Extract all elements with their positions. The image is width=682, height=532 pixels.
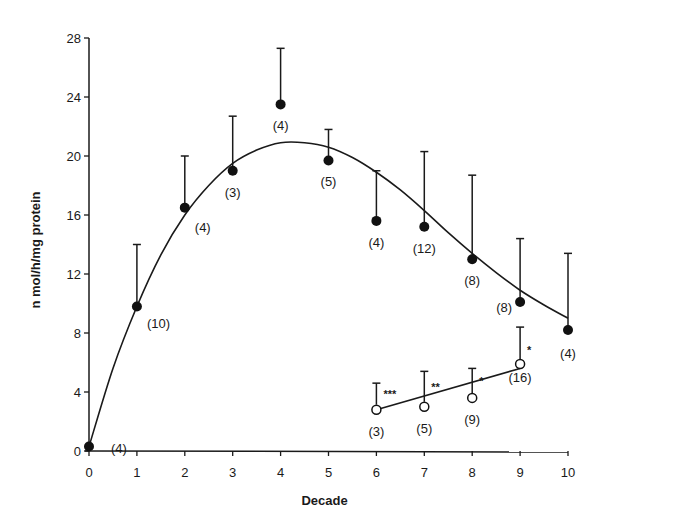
x-tick-label: 4 bbox=[277, 465, 284, 480]
fit-line-open bbox=[376, 368, 520, 409]
sample-size-label: (9) bbox=[464, 412, 480, 427]
data-point-filled bbox=[84, 442, 94, 452]
x-axis-line bbox=[85, 451, 568, 452]
x-axis-title: Decade bbox=[301, 493, 347, 508]
chart: 0481216202428 012345678910 Decade n mol/… bbox=[0, 0, 682, 532]
significance-marker: ** bbox=[431, 381, 440, 393]
sample-size-label: (5) bbox=[321, 174, 337, 189]
sample-size-label: (5) bbox=[416, 421, 432, 436]
data-point-open bbox=[516, 359, 525, 368]
data-point-filled bbox=[228, 166, 238, 176]
y-ticks: 0481216202428 bbox=[67, 31, 89, 459]
sample-size-label: (3) bbox=[368, 424, 384, 439]
sample-size-label: (3) bbox=[225, 185, 241, 200]
x-tick-label: 9 bbox=[516, 465, 523, 480]
y-tick-label: 4 bbox=[74, 385, 81, 400]
y-tick-label: 12 bbox=[67, 267, 81, 282]
sample-size-label: (4) bbox=[368, 235, 384, 250]
x-tick-label: 0 bbox=[85, 465, 92, 480]
data-point-filled bbox=[419, 222, 429, 232]
sample-size-label: (16) bbox=[509, 370, 532, 385]
x-tick-label: 6 bbox=[373, 465, 380, 480]
sample-size-label: (8) bbox=[464, 273, 480, 288]
data-point-open bbox=[468, 393, 477, 402]
y-tick-label: 28 bbox=[67, 31, 81, 46]
x-tick-label: 8 bbox=[469, 465, 476, 480]
y-tick-label: 24 bbox=[67, 90, 81, 105]
x-tick-label: 10 bbox=[561, 465, 575, 480]
sample-size-label: (10) bbox=[147, 316, 170, 331]
x-tick-label: 1 bbox=[133, 465, 140, 480]
data-point-filled bbox=[515, 297, 525, 307]
y-tick-label: 0 bbox=[74, 444, 81, 459]
sample-size-label: (8) bbox=[496, 300, 512, 315]
sample-size-label: (4) bbox=[195, 220, 211, 235]
y-tick-label: 20 bbox=[67, 149, 81, 164]
data-point-filled bbox=[180, 203, 190, 213]
data-point-open bbox=[372, 405, 381, 414]
significance-marker: *** bbox=[383, 388, 397, 400]
sample-size-label: (4) bbox=[273, 118, 289, 133]
x-tick-label: 3 bbox=[229, 465, 236, 480]
x-ticks: 012345678910 bbox=[85, 451, 575, 480]
data-labels: (4)(10)(4)(3)(4)(5)(4)(12)(8)(8)(4)(3)**… bbox=[111, 118, 576, 455]
x-tick-label: 7 bbox=[421, 465, 428, 480]
data-point-filled bbox=[276, 99, 286, 109]
significance-marker: * bbox=[527, 344, 532, 356]
data-point-filled bbox=[324, 155, 334, 165]
x-tick-label: 2 bbox=[181, 465, 188, 480]
data-point-open bbox=[420, 402, 429, 411]
sample-size-label: (12) bbox=[413, 241, 436, 256]
y-axis-title: n mol/h/mg protein bbox=[28, 191, 43, 308]
sample-size-label: (4) bbox=[560, 346, 576, 361]
data-point-filled bbox=[132, 301, 142, 311]
sample-size-label: (4) bbox=[111, 441, 127, 456]
x-tick-label: 5 bbox=[325, 465, 332, 480]
data-point-filled bbox=[467, 254, 477, 264]
significance-marker: * bbox=[479, 375, 484, 387]
data-point-filled bbox=[371, 216, 381, 226]
data-point-filled bbox=[563, 325, 573, 335]
y-tick-label: 16 bbox=[67, 208, 81, 223]
y-tick-label: 8 bbox=[74, 326, 81, 341]
